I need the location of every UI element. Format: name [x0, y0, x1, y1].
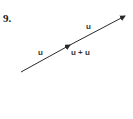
label-first-vector: u — [38, 49, 43, 57]
vector-u-second — [70, 16, 125, 45]
label-resultant: u + u — [71, 49, 90, 57]
vector-diagram — [0, 0, 133, 119]
vector-u-first — [21, 45, 70, 72]
label-second-vector: u — [86, 23, 91, 31]
